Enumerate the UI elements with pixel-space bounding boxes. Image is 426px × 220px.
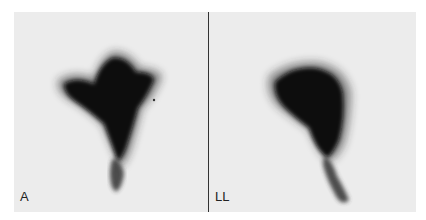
uptake-image-left-lateral <box>209 12 416 212</box>
scintigraphy-figure: A LL <box>14 12 416 212</box>
panel-label-a: A <box>20 189 29 204</box>
panel-left-lateral: LL <box>209 12 416 212</box>
uptake-image-anterior <box>14 12 208 212</box>
panel-label-ll: LL <box>215 189 229 204</box>
panel-anterior: A <box>14 12 208 212</box>
